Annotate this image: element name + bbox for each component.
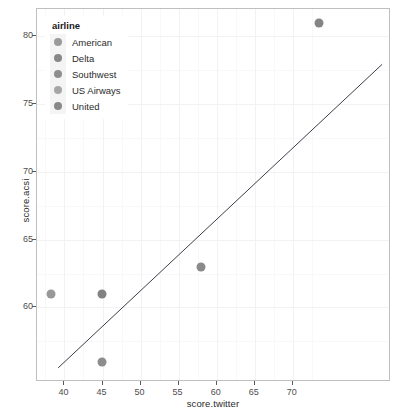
x-tick-label: 40 [43,387,83,397]
legend-item[interactable]: US Airways [50,82,121,98]
x-tick-mark [140,381,141,385]
x-axis-title: score.twitter [35,398,391,409]
data-point [197,262,206,271]
chart-root: score.acsi score.twitter 6065707580 4045… [0,0,405,415]
x-tick-mark [254,381,255,385]
legend-key-swatch [50,82,66,98]
legend-item-label: US Airways [72,85,121,96]
x-tick-label: 55 [158,387,198,397]
legend-key-swatch [50,98,66,114]
x-tick-mark [102,381,103,385]
legend-key-swatch [50,50,66,66]
legend-item[interactable]: Delta [50,50,121,66]
y-tick-label: 80 [0,30,33,40]
x-tick-label: 45 [82,387,122,397]
y-tick-label: 75 [0,98,33,108]
legend-dot-icon [54,86,62,94]
x-tick-mark [292,381,293,385]
legend-items: AmericanDeltaSouthwestUS AirwaysUnited [50,34,121,114]
data-point [314,18,323,27]
legend-key-swatch [50,66,66,82]
legend-item[interactable]: United [50,98,121,114]
legend-dot-icon [54,70,62,78]
legend: airline AmericanDeltaSouthwestUS Airways… [45,16,128,119]
x-tick-label: 70 [272,387,312,397]
x-tick-label: 50 [120,387,160,397]
x-tick-label: 60 [196,387,236,397]
legend-dot-icon [54,38,62,46]
legend-item[interactable]: American [50,34,121,50]
y-axis-title: score.acsi [20,121,31,281]
y-tick-label: 70 [0,166,33,176]
data-point [97,289,106,298]
x-tick-mark [178,381,179,385]
x-tick-mark [216,381,217,385]
legend-item-label: Delta [72,53,94,64]
x-tick-mark [63,381,64,385]
legend-item[interactable]: Southwest [50,66,121,82]
legend-dot-icon [54,54,62,62]
y-tick-label: 65 [0,234,33,244]
data-point [46,289,55,298]
y-tick-label: 60 [0,301,33,311]
legend-key-swatch [50,34,66,50]
x-tick-label: 65 [234,387,274,397]
legend-item-label: Southwest [72,69,116,80]
legend-dot-icon [54,102,62,110]
legend-item-label: American [72,37,112,48]
data-point [97,357,106,366]
legend-item-label: United [72,101,99,112]
legend-title: airline [52,20,121,31]
